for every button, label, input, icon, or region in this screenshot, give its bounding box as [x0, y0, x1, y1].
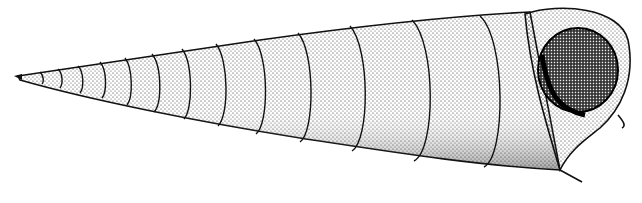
- shell-apex: [14, 74, 22, 80]
- shell-body: [18, 12, 560, 170]
- shell-drawing: [0, 0, 642, 203]
- shell-illustration: [0, 0, 642, 203]
